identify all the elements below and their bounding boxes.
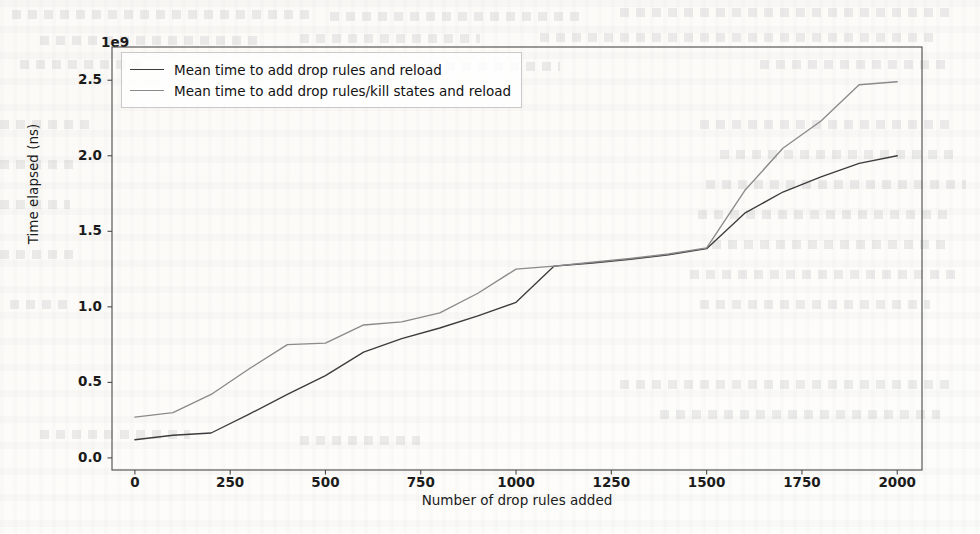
legend-label: Mean time to add drop rules and reload xyxy=(174,62,442,78)
series-line-2 xyxy=(135,82,897,417)
line-chart-figure: 1e9 Time elapsed (ns) Number of drop rul… xyxy=(0,0,980,534)
series-line-1 xyxy=(135,156,897,440)
legend-entry: Mean time to add drop rules and reload xyxy=(130,59,511,80)
chart-legend: Mean time to add drop rules and reloadMe… xyxy=(121,52,522,108)
plot-frame xyxy=(112,47,922,470)
legend-line-swatch xyxy=(130,69,164,70)
legend-label: Mean time to add drop rules/kill states … xyxy=(174,83,511,99)
legend-entry: Mean time to add drop rules/kill states … xyxy=(130,80,511,101)
legend-line-swatch xyxy=(130,90,164,91)
